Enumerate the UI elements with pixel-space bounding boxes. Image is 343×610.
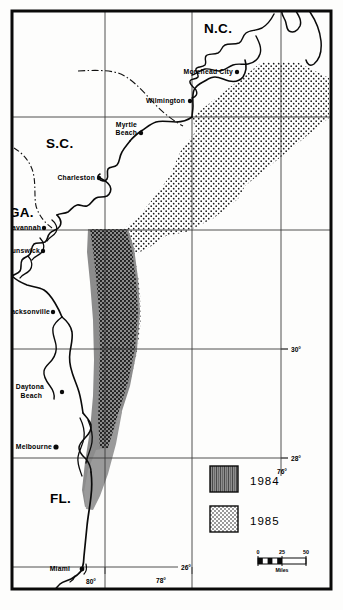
city-dot-brunswick: [41, 249, 45, 253]
legend-label-1984: 1984: [250, 475, 280, 487]
state-label-sc: S.C.: [46, 136, 73, 151]
city-label-beach-myrtle: Beach: [116, 129, 137, 136]
legend-swatch-1985: [210, 506, 238, 532]
city-label-daytona: Daytona: [16, 383, 44, 391]
latitude-label-28: 28°: [291, 455, 301, 462]
latitude-label-26: 26°: [181, 564, 191, 571]
state-label-fl: FL.: [50, 491, 71, 506]
longitude-label-80: 80°: [86, 578, 96, 585]
city-label-beach-daytona: Beach: [21, 392, 42, 399]
longitude-label-76: 76°: [277, 468, 287, 475]
city-dot-miami: [80, 567, 85, 572]
longitude-label-78: 78°: [156, 577, 166, 584]
city-label-myrtle: Myrtle: [116, 121, 137, 129]
scale-label-25: 25: [279, 549, 285, 555]
city-dot-jacksonville: [51, 310, 55, 314]
city-label-jacksonville: Jacksonville: [7, 308, 50, 315]
state-label-nc: N.C.: [204, 21, 232, 36]
latitude-label-30: 30°: [291, 346, 301, 353]
city-dot-myrtle-beach: [139, 131, 143, 135]
map-figure: N.C. S.C. GA. FL. Morehead City Wilmingt…: [0, 0, 343, 610]
legend-swatch-1984: [210, 466, 238, 492]
map-canvas: N.C. S.C. GA. FL. Morehead City Wilmingt…: [0, 0, 343, 610]
city-label-morehead-city: Morehead City: [184, 68, 233, 76]
city-dot-wilmington: [188, 99, 192, 103]
scale-bar-seg-2: [268, 558, 273, 564]
city-dot-melbourne: [53, 444, 58, 449]
scale-label-0: 0: [257, 549, 260, 555]
legend-label-1985: 1985: [250, 515, 280, 527]
scale-bar-seg-3: [277, 558, 282, 564]
city-label-miami: Miami: [50, 565, 70, 572]
city-dot-charleston: [97, 176, 101, 180]
city-dot-daytona-beach: [60, 390, 64, 394]
city-label-melbourne: Melbourne: [16, 443, 52, 450]
city-label-wilmington: Wilmington: [146, 97, 185, 105]
scale-bar-seg-1: [258, 558, 263, 564]
scale-unit-label: Miles: [276, 567, 289, 573]
city-label-charleston: Charleston: [57, 174, 95, 181]
city-dot-morehead-city: [235, 70, 239, 74]
city-dot-savannah: [42, 226, 46, 230]
scale-label-50: 50: [303, 549, 309, 555]
